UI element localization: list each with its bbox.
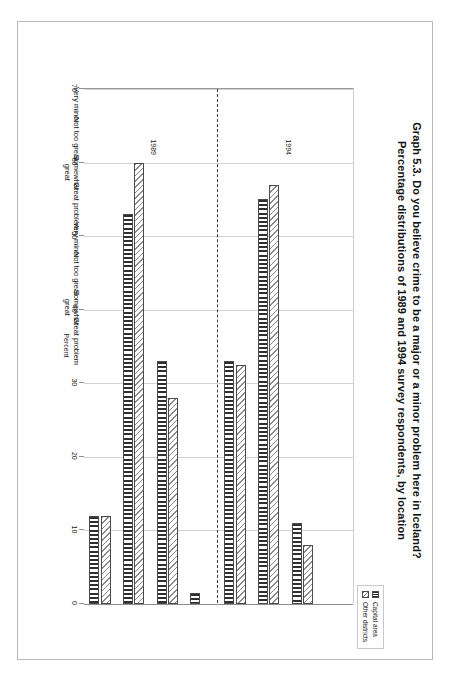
legend-item-other-districts: Other districts	[362, 591, 369, 642]
rotated-figure: Graph 5.3. Do you believe crime to be a …	[18, 22, 432, 659]
page-canvas: Graph 5.3. Do you believe crime to be a …	[0, 0, 449, 678]
bar-other-districts-2	[168, 398, 178, 604]
bar-other-districts-0	[101, 516, 111, 604]
bar-capital-area-3	[190, 593, 200, 604]
value-tick-20	[79, 456, 84, 457]
plot-inner	[84, 89, 353, 603]
bar-capital-area-6	[292, 523, 302, 604]
bar-capital-area-4	[224, 361, 234, 604]
value-tick-30	[79, 382, 84, 383]
gridline-70	[84, 89, 353, 90]
title-line-2: Percentage distributions of 1989 and 199…	[395, 22, 409, 659]
bar-capital-area-5	[258, 199, 268, 604]
year-annotation-1989: 1989	[151, 139, 158, 155]
value-tick-label-0: 0	[71, 601, 78, 605]
bar-other-districts-6	[303, 545, 313, 604]
category-label-7: Very minor	[72, 75, 81, 135]
legend-swatch-icon-other-districts	[362, 591, 369, 598]
value-tick-0	[79, 603, 84, 604]
chart-title: Graph 5.3. Do you believe crime to be a …	[395, 22, 424, 659]
value-tick-label-10: 10	[71, 526, 78, 534]
value-tick-label-30: 30	[71, 378, 78, 386]
legend-item-capital-area: Capital area	[372, 591, 379, 642]
chart-legend: Capital area Other districts	[357, 585, 384, 649]
bar-other-districts-4	[236, 365, 246, 604]
figure-frame: Graph 5.3. Do you believe crime to be a …	[17, 21, 433, 660]
bar-capital-area-0	[89, 516, 99, 604]
gridline-60	[84, 163, 353, 164]
value-tick-10	[79, 529, 84, 530]
value-tick-label-20: 20	[71, 452, 78, 460]
title-line-1: Graph 5.3. Do you believe crime to be a …	[410, 22, 424, 659]
bar-capital-area-1	[123, 214, 133, 604]
plot-area	[84, 88, 354, 603]
bar-other-districts-5	[269, 185, 279, 604]
legend-label-other-districts: Other districts	[362, 602, 369, 642]
legend-swatch-icon-capital-area	[372, 591, 379, 598]
year-annotation-1994: 1994	[286, 139, 293, 155]
group-separator	[217, 89, 218, 603]
bar-other-districts-1	[134, 163, 144, 604]
axis-baseline	[84, 604, 353, 605]
bar-capital-area-2	[157, 361, 167, 604]
legend-label-capital-area: Capital area	[372, 602, 379, 637]
